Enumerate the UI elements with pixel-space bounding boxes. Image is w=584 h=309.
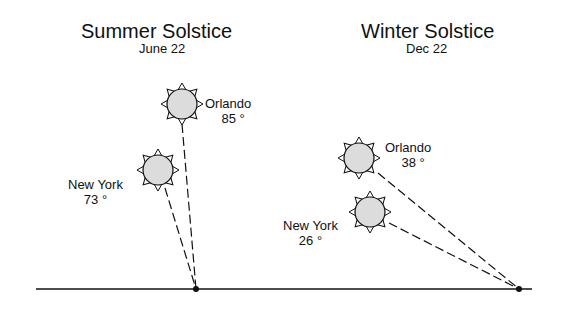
sun-angle: 85 ° xyxy=(205,111,251,126)
summer-newyork-ray xyxy=(165,188,196,289)
sun-angle: 73 ° xyxy=(68,192,123,207)
city-name: Orlando xyxy=(385,140,431,155)
winter-orlando-label: Orlando 38 ° xyxy=(385,140,431,170)
summer-observer-point xyxy=(193,286,199,292)
sun-angle: 26 ° xyxy=(283,233,338,248)
winter-observer-point xyxy=(516,286,522,292)
winter-newyork-ray xyxy=(389,223,519,289)
sun-icon xyxy=(349,191,391,233)
city-name: New York xyxy=(283,218,338,233)
winter-date: Dec 22 xyxy=(406,41,447,56)
winter-newyork-label: New York 26 ° xyxy=(283,218,338,248)
summer-newyork-label: New York 73 ° xyxy=(68,177,123,207)
sun-angle: 38 ° xyxy=(385,155,431,170)
city-name: New York xyxy=(68,177,123,192)
summer-title: Summer Solstice xyxy=(81,20,232,42)
sun-icon xyxy=(338,137,380,179)
sun-icon xyxy=(137,149,179,191)
city-name: Orlando xyxy=(205,96,251,111)
sun-icon xyxy=(161,83,203,125)
summer-orlando-label: Orlando 85 ° xyxy=(205,96,251,126)
summer-date: June 22 xyxy=(139,41,185,56)
winter-title: Winter Solstice xyxy=(361,20,494,42)
solstice-sun-angle-diagram xyxy=(0,0,584,309)
winter-orlando-ray xyxy=(378,173,519,289)
